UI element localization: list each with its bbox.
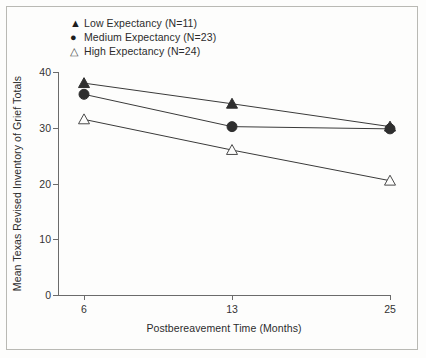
legend-label-medium-expectancy: Medium Expectancy (N=23) bbox=[84, 31, 216, 43]
y-axis-tick-label: 10 bbox=[39, 234, 51, 244]
legend-item-medium-expectancy: ● Medium Expectancy (N=23) bbox=[70, 30, 216, 44]
y-axis-title: Mean Texas Revised Inventory of Grief To… bbox=[10, 72, 24, 295]
data-point-open-triangle bbox=[79, 114, 90, 124]
open-triangle-icon: △ bbox=[70, 46, 84, 57]
x-axis-title: Postbereavement Time (Months) bbox=[58, 322, 390, 334]
y-axis-tick-label: 20 bbox=[39, 179, 51, 189]
filled-triangle-icon: ▲ bbox=[70, 18, 84, 29]
plot-area: 01020304061325 bbox=[58, 72, 390, 295]
y-axis-tick-label: 30 bbox=[39, 123, 51, 133]
y-axis-tick bbox=[53, 295, 58, 296]
legend-label-low-expectancy: Low Expectancy (N=11) bbox=[84, 17, 197, 29]
x-axis-tick bbox=[232, 295, 233, 300]
legend-item-high-expectancy: △ High Expectancy (N=24) bbox=[70, 44, 216, 58]
y-axis-tick-label: 40 bbox=[39, 67, 51, 77]
y-axis-tick-label: 0 bbox=[45, 290, 51, 300]
series-layer bbox=[58, 72, 390, 295]
x-axis-line bbox=[58, 295, 390, 296]
series-line bbox=[84, 94, 390, 129]
x-axis-tick bbox=[84, 295, 85, 300]
chart-legend: ▲ Low Expectancy (N=11) ● Medium Expecta… bbox=[70, 16, 216, 58]
legend-item-low-expectancy: ▲ Low Expectancy (N=11) bbox=[70, 16, 216, 30]
legend-label-high-expectancy: High Expectancy (N=24) bbox=[84, 45, 200, 57]
data-point-filled-circle bbox=[385, 124, 395, 134]
data-point-filled-circle bbox=[79, 89, 89, 99]
x-axis-tick-label: 13 bbox=[226, 304, 238, 314]
data-point-filled-triangle bbox=[79, 78, 90, 88]
x-axis-tick-label: 25 bbox=[384, 304, 396, 314]
x-axis-tick-label: 6 bbox=[81, 304, 87, 314]
filled-circle-icon: ● bbox=[70, 32, 84, 43]
x-axis-tick bbox=[390, 295, 391, 300]
series-line bbox=[84, 83, 390, 126]
figure-container: ▲ Low Expectancy (N=11) ● Medium Expecta… bbox=[0, 0, 426, 358]
data-point-filled-circle bbox=[227, 122, 237, 132]
